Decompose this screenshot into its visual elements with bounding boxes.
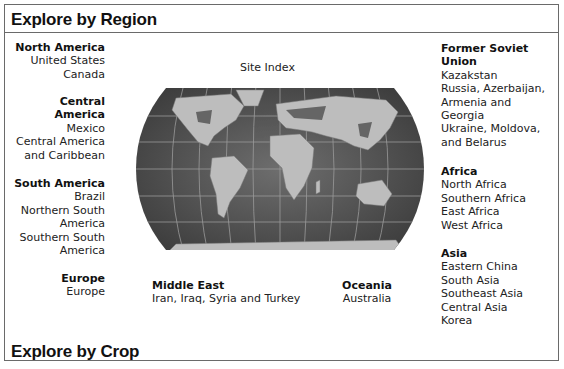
region-link[interactable]: America — [4, 217, 105, 230]
region-link[interactable]: North Africa — [441, 178, 559, 191]
region-africa: Africa North Africa Southern Africa East… — [441, 165, 559, 232]
region-link[interactable]: and Belarus — [441, 136, 559, 149]
region-link[interactable]: Russia, Azerbaijan, — [441, 82, 559, 95]
region-link[interactable]: Central Asia — [441, 301, 559, 314]
region-heading[interactable]: Former Soviet — [441, 42, 559, 55]
region-link[interactable]: Southeast Asia — [441, 287, 559, 300]
region-heading[interactable]: South America — [4, 177, 105, 190]
region-link[interactable]: Australia — [332, 292, 402, 305]
region-link[interactable]: Eastern China — [441, 260, 559, 273]
region-link[interactable]: Armenia and — [441, 96, 559, 109]
region-former-soviet-union: Former Soviet Union Kazakstan Russia, Az… — [441, 42, 559, 149]
region-north-america: North America United States Canada — [10, 41, 105, 81]
region-central-america: Central America Mexico Central America a… — [10, 95, 105, 162]
region-link[interactable]: Georgia — [441, 109, 559, 122]
region-europe: Europe Europe — [10, 272, 105, 299]
explore-by-region-title: Explore by Region — [11, 10, 157, 30]
region-south-america: South America Brazil Northern South Amer… — [4, 177, 105, 257]
region-link[interactable]: Ukraine, Moldova, — [441, 122, 559, 135]
region-heading[interactable]: Asia — [441, 247, 559, 260]
world-map[interactable] — [136, 84, 424, 254]
region-link[interactable]: United States — [10, 54, 105, 67]
region-link[interactable]: Southern Africa — [441, 192, 559, 205]
explore-by-crop-title[interactable]: Explore by Crop — [11, 342, 139, 362]
region-heading[interactable]: Africa — [441, 165, 559, 178]
region-link[interactable]: Europe — [10, 285, 105, 298]
region-link[interactable]: Canada — [10, 68, 105, 81]
region-heading[interactable]: Oceania — [332, 279, 402, 292]
region-link[interactable]: East Africa — [441, 205, 559, 218]
region-link[interactable]: America — [4, 244, 105, 257]
region-link[interactable]: Brazil — [4, 190, 105, 203]
region-middle-east: Middle East Iran, Iraq, Syria and Turkey — [152, 279, 332, 306]
region-heading[interactable]: North America — [10, 41, 105, 54]
region-link[interactable]: Mexico — [10, 122, 105, 135]
region-heading[interactable]: Europe — [10, 272, 105, 285]
region-heading[interactable]: America — [10, 108, 105, 121]
header-divider — [4, 32, 559, 33]
region-link[interactable]: Northern South — [4, 204, 105, 217]
region-link[interactable]: West Africa — [441, 219, 559, 232]
region-link[interactable]: Central America — [10, 135, 105, 148]
region-oceania: Oceania Australia — [332, 279, 402, 306]
region-heading[interactable]: Middle East — [152, 279, 332, 292]
region-link[interactable]: Kazakstan — [441, 69, 559, 82]
region-link[interactable]: South Asia — [441, 274, 559, 287]
site-index-label: Site Index — [240, 61, 295, 74]
region-link[interactable]: and Caribbean — [10, 149, 105, 162]
region-link[interactable]: Southern South — [4, 231, 105, 244]
region-link[interactable]: Iran, Iraq, Syria and Turkey — [152, 292, 332, 305]
region-link[interactable]: Korea — [441, 314, 559, 327]
region-asia: Asia Eastern China South Asia Southeast … — [441, 247, 559, 327]
region-heading[interactable]: Union — [441, 55, 559, 68]
region-heading[interactable]: Central — [10, 95, 105, 108]
